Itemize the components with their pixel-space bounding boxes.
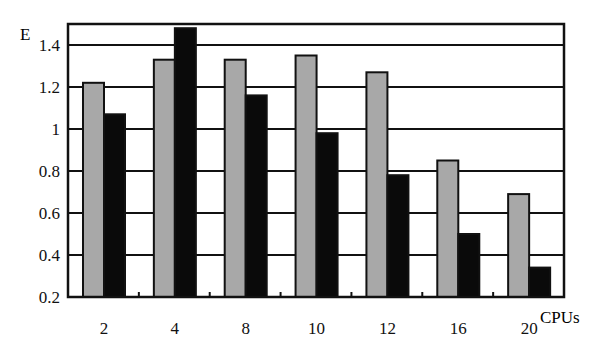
x-tick-label: 10 — [308, 319, 325, 338]
x-tick-label: 2 — [100, 319, 109, 338]
bar-chart: 0.20.40.60.811.21.4 24810121620 E CPUs — [0, 0, 606, 354]
bar — [83, 83, 104, 297]
bar — [508, 194, 529, 297]
bar — [387, 175, 408, 297]
y-axis-label: E — [20, 25, 30, 44]
bar — [246, 95, 267, 297]
y-tick-label: 0.6 — [39, 204, 60, 223]
bar — [154, 60, 175, 297]
bar — [437, 161, 458, 298]
x-axis-label: CPUs — [540, 308, 580, 327]
bar — [225, 60, 246, 297]
y-tick-label: 0.4 — [39, 246, 61, 265]
bar — [458, 234, 479, 297]
y-axis-ticks: 0.20.40.60.811.21.4 — [39, 36, 61, 307]
y-tick-label: 1.4 — [39, 36, 61, 55]
y-tick-label: 1.2 — [39, 78, 60, 97]
x-tick-label: 20 — [521, 319, 538, 338]
y-tick-label: 0.8 — [39, 162, 60, 181]
bar — [366, 72, 387, 297]
bar — [175, 28, 196, 297]
x-tick-label: 12 — [379, 319, 396, 338]
x-axis-ticks: 24810121620 — [100, 292, 538, 338]
bar — [529, 268, 550, 297]
x-tick-label: 16 — [450, 319, 467, 338]
bar — [104, 114, 125, 297]
bar — [296, 56, 317, 298]
bars — [83, 28, 550, 297]
bar — [317, 133, 338, 297]
x-tick-label: 4 — [171, 319, 180, 338]
y-tick-label: 1 — [52, 120, 61, 139]
x-tick-label: 8 — [241, 319, 250, 338]
y-tick-label: 0.2 — [39, 288, 60, 307]
